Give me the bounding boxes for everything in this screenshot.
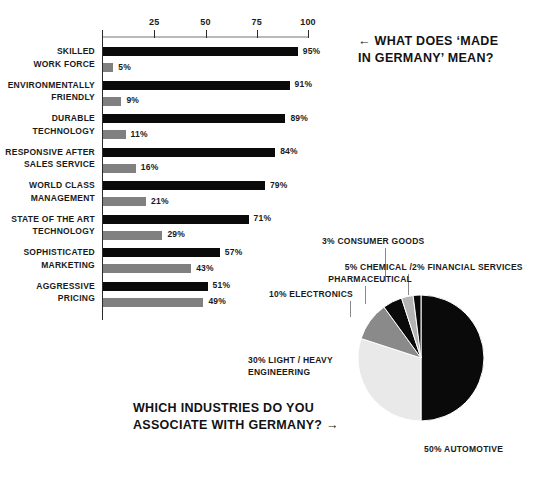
bar-fill [103, 81, 290, 90]
pie-label-automotive: 50% AUTOMOTIVE [424, 444, 503, 456]
bar-value-label: 84% [280, 146, 298, 156]
bar-value-label: 91% [295, 79, 313, 89]
bar-value-label: 71% [254, 213, 272, 223]
bar-group: SKILLEDWORK FORCE95%5% [0, 47, 345, 74]
axis-tick-75 [257, 30, 258, 38]
bar-group: ENVIRONMENTALLYFRIENDLY91%9% [0, 81, 345, 108]
bar-group-label-line1: RESPONSIVE AFTER [0, 146, 95, 159]
bar-group-label-line1: SKILLED [0, 45, 95, 58]
bar-fill [103, 181, 265, 190]
bar-group: RESPONSIVE AFTERSALES SERVICE84%16% [0, 148, 345, 175]
bar-group-label-line1: SOPHISTICATED [0, 246, 95, 259]
bar-group-label-line1: STATE OF THE ART [0, 213, 95, 226]
bar-group-label-line1: DURABLE [0, 112, 95, 125]
bar-fill [103, 197, 146, 206]
bar-value-label: 5% [118, 62, 131, 72]
bar-group-label-line1: AGGRESSIVE [0, 280, 95, 293]
pie-chart: 3% CONSUMER GOODS2% FINANCIAL SERVICES5%… [240, 232, 533, 478]
bar-group-label: DURABLETECHNOLOGY [0, 112, 95, 137]
pie-label-chemical: 5% CHEMICAL /PHARMACEUTICAL [302, 262, 412, 285]
pie-label-financial-label: 2% FINANCIAL SERVICES [412, 262, 523, 274]
pie-label-engineering-label_line2: ENGINEERING [248, 367, 333, 379]
pie-leader-line-electronics [350, 301, 351, 317]
pie-label-electronics: 10% ELECTRONICS [253, 289, 353, 301]
axis-tick-label-75: 75 [252, 17, 262, 27]
headline-made-in-germany-line1: ← WHAT DOES ‘MADE [358, 33, 533, 50]
bar-group-label-line2: TECHNOLOGY [0, 125, 95, 138]
bar-group-label: SKILLEDWORK FORCE [0, 45, 95, 70]
bar-group-label-line1: ENVIRONMENTALLY [0, 79, 95, 92]
axis-tick-label-25: 25 [149, 17, 159, 27]
bar-value-label: 43% [196, 263, 214, 273]
headline-made-in-germany-line2: IN GERMANY’ MEAN? [358, 50, 533, 67]
pie-label-automotive-label: 50% AUTOMOTIVE [424, 444, 503, 456]
bar-group-label-line2: WORK FORCE [0, 58, 95, 71]
bar-fill [103, 215, 249, 224]
bar-value-label: 49% [208, 296, 226, 306]
bar-group-label: WORLD CLASSMANAGEMENT [0, 179, 95, 204]
pie-label-consumer: 3% CONSUMER GOODS [322, 236, 425, 248]
bar-group-label: SOPHISTICATEDMARKETING [0, 246, 95, 271]
bar-group-label-line2: MARKETING [0, 259, 95, 272]
pie-slice [421, 295, 484, 421]
bar-fill [103, 47, 298, 56]
bar-value-label: 29% [167, 229, 185, 239]
bar-group-label: STATE OF THE ARTTECHNOLOGY [0, 213, 95, 238]
pie-label-chemical-label_line1: 5% CHEMICAL / [302, 262, 412, 274]
headline-made-in-germany: ← WHAT DOES ‘MADE IN GERMANY’ MEAN? [358, 33, 533, 67]
bar-value-label: 16% [141, 162, 159, 172]
bar-value-label: 95% [303, 46, 321, 56]
bar-value-label: 9% [126, 95, 139, 105]
axis-tick-50 [206, 30, 207, 38]
bar-fill [103, 114, 285, 123]
pie-label-chemical-label_line2: PHARMACEUTICAL [302, 274, 412, 286]
pie-label-financial: 2% FINANCIAL SERVICES [412, 262, 523, 274]
bar-group-label-line1: WORLD CLASS [0, 179, 95, 192]
bar-group: DURABLETECHNOLOGY89%11% [0, 114, 345, 141]
bar-fill [103, 148, 275, 157]
pie-label-electronics-label: 10% ELECTRONICS [253, 289, 353, 301]
bar-fill [103, 298, 203, 307]
axis-tick-100 [308, 30, 309, 38]
bar-group-label: RESPONSIVE AFTERSALES SERVICE [0, 146, 95, 171]
bar-value-label: 79% [270, 180, 288, 190]
bar-group-label-line2: TECHNOLOGY [0, 225, 95, 238]
axis-tick-label-100: 100 [300, 17, 316, 27]
bar-fill [103, 97, 121, 106]
pie-label-engineering-label_line1: 30% LIGHT / HEAVY [248, 355, 333, 367]
pie-label-consumer-label: 3% CONSUMER GOODS [322, 236, 425, 248]
bar-fill [103, 130, 126, 139]
bar-group-label-line2: PRICING [0, 292, 95, 305]
bar-group-label-line2: MANAGEMENT [0, 192, 95, 205]
bar-value-label: 11% [131, 129, 148, 139]
headline-industries: WHICH INDUSTRIES DO YOU ASSOCIATE WITH G… [133, 400, 353, 434]
axis-tick-25 [154, 30, 155, 38]
bar-fill [103, 164, 136, 173]
bar-group: WORLD CLASSMANAGEMENT79%21% [0, 181, 345, 208]
bar-group-label-line2: SALES SERVICE [0, 158, 95, 171]
pie-label-engineering: 30% LIGHT / HEAVYENGINEERING [248, 355, 333, 378]
bar-fill [103, 282, 208, 291]
headline-industries-line1: WHICH INDUSTRIES DO YOU [133, 400, 353, 417]
bar-fill [103, 231, 162, 240]
bar-value-label: 21% [151, 196, 169, 206]
bar-value-label: 51% [213, 280, 231, 290]
axis-tick-label-50: 50 [200, 17, 210, 27]
bar-group-label: ENVIRONMENTALLYFRIENDLY [0, 79, 95, 104]
bar-value-label: 89% [290, 113, 308, 123]
pie-leader-line-chemical [365, 286, 366, 304]
bar-fill [103, 264, 191, 273]
bar-group-label-line2: FRIENDLY [0, 91, 95, 104]
bar-fill [103, 248, 220, 257]
headline-industries-line2: ASSOCIATE WITH GERMANY? → [133, 417, 353, 434]
bar-group-label: AGGRESSIVEPRICING [0, 280, 95, 305]
bar-fill [103, 63, 113, 72]
